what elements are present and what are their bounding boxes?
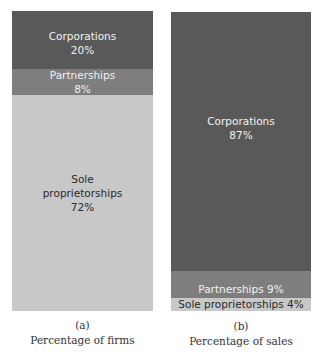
sales-stacked-bar: Corporations87%Partnerships 9%Sole propr… bbox=[171, 12, 311, 311]
segment-corporations: Corporations87% bbox=[171, 12, 311, 271]
segment-corporations: Corporations20% bbox=[12, 11, 153, 69]
segment-label: Corporations bbox=[207, 114, 275, 128]
segment-label: Partnerships 9% bbox=[198, 282, 283, 296]
segment-sole-proprietorships: Soleproprietorships72% bbox=[12, 95, 153, 311]
segment-label: proprietorships bbox=[43, 186, 123, 200]
caption-a-label: (a) bbox=[12, 318, 153, 333]
segment-label: 72% bbox=[71, 200, 94, 214]
caption-b-title: Percentage of sales bbox=[171, 334, 311, 349]
segment-label: 20% bbox=[71, 43, 94, 57]
caption-a-title: Percentage of firms bbox=[12, 333, 153, 348]
segment-label: Sole proprietorships 4% bbox=[178, 298, 303, 311]
segment-label: Partnerships bbox=[50, 68, 115, 82]
segment-label: Sole bbox=[71, 172, 93, 186]
segment-label: Corporations bbox=[49, 29, 117, 43]
segment-label: 8% bbox=[74, 82, 91, 96]
segment-partnerships: Partnerships8% bbox=[12, 69, 153, 95]
caption-b: (b) Percentage of sales bbox=[171, 319, 311, 349]
segment-sole-proprietorships: Sole proprietorships 4% bbox=[171, 298, 311, 311]
segment-partnerships: Partnerships 9% bbox=[171, 271, 311, 298]
firms-stacked-bar: Corporations20%Partnerships8%Soleproprie… bbox=[12, 11, 153, 311]
caption-a: (a) Percentage of firms bbox=[12, 318, 153, 348]
caption-b-label: (b) bbox=[171, 319, 311, 334]
segment-label: 87% bbox=[229, 128, 252, 142]
